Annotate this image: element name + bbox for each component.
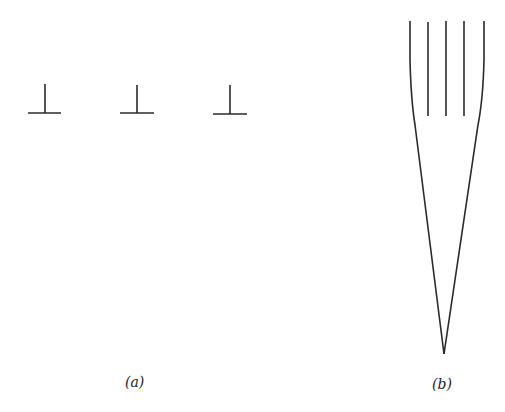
panel-b-label: (b) xyxy=(432,376,452,392)
dislocation-symbol-2 xyxy=(120,85,154,113)
figure-canvas xyxy=(0,0,505,412)
dislocation-symbol-1 xyxy=(28,84,61,113)
dislocation-symbol-3 xyxy=(213,85,247,114)
panel-a-label: (a) xyxy=(125,374,144,390)
wedge-left-edge xyxy=(410,21,444,354)
panel-b-wedge xyxy=(410,21,484,354)
panel-a-dislocations xyxy=(28,84,247,114)
